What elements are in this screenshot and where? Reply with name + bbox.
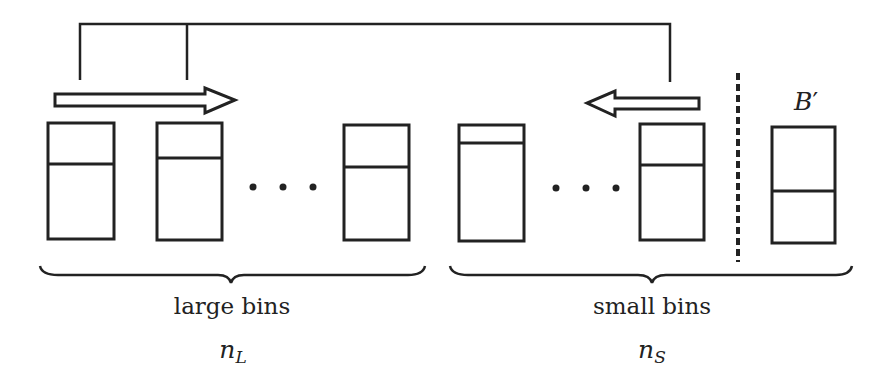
small-bins-ellipsis — [553, 185, 620, 192]
b-prime-label: B′ — [793, 87, 818, 116]
large-bins-label: large bins — [174, 293, 290, 319]
large-bins-ellipsis — [250, 184, 317, 191]
large-bins-brace — [40, 266, 425, 283]
large-bin-3 — [344, 125, 409, 240]
small-bins-label: small bins — [593, 293, 711, 319]
small-bins-brace — [450, 266, 852, 283]
bin-packing-diagram: B′ large bins small bins nL nS — [0, 0, 883, 383]
small-bins-count: nS — [638, 335, 666, 367]
small-bin-2 — [640, 124, 704, 240]
large-bins-count: nL — [219, 335, 246, 367]
right-arrow-icon — [55, 88, 235, 113]
small-bin-1 — [459, 125, 524, 241]
bin-b-prime — [772, 127, 835, 243]
left-arrow-icon — [587, 91, 699, 116]
large-bin-2 — [157, 123, 222, 240]
top-connector — [80, 24, 670, 82]
large-bin-1 — [48, 123, 114, 239]
